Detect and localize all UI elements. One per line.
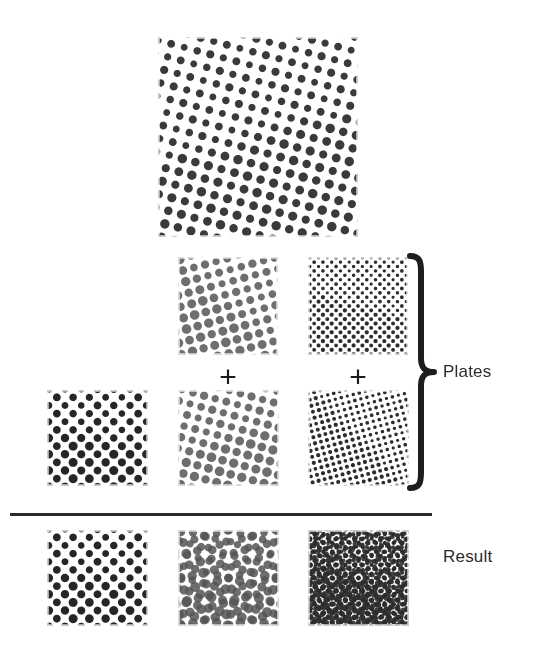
plates-brace-icon — [404, 252, 438, 492]
halftone-result-three-plates-moire-canvas — [308, 530, 409, 626]
halftone-plate-dark-fine — [308, 257, 408, 355]
halftone-overview-combined — [158, 37, 358, 237]
halftone-result-two-plates-moire — [178, 530, 279, 626]
halftone-plate-medium-gray-coarse-canvas — [178, 257, 278, 355]
plus-operator-1: + — [206, 362, 250, 392]
halftone-plate-dark-fine-2 — [308, 390, 409, 486]
halftone-plate-medium-gray-coarse-2-canvas — [178, 390, 279, 486]
halftone-plate-dark-fine-2-canvas — [308, 390, 409, 486]
halftone-plate-dark-coarse — [47, 390, 148, 486]
halftone-plates-figure: + + Plates Result — [0, 0, 547, 661]
halftone-result-two-plates-moire-canvas — [178, 530, 279, 626]
plus-operator-2: + — [336, 362, 380, 392]
result-label: Result — [443, 548, 492, 565]
halftone-plate-dark-coarse-canvas — [47, 390, 148, 486]
halftone-plate-medium-gray-coarse-2 — [178, 390, 279, 486]
halftone-overview-combined-canvas — [158, 37, 358, 237]
halftone-result-three-plates-moire — [308, 530, 409, 626]
plates-label: Plates — [443, 363, 491, 380]
section-divider — [10, 513, 432, 516]
halftone-plate-medium-gray-coarse — [178, 257, 278, 355]
halftone-result-single-plate-canvas — [47, 530, 148, 626]
halftone-result-single-plate — [47, 530, 148, 626]
halftone-plate-dark-fine-canvas — [308, 257, 408, 355]
